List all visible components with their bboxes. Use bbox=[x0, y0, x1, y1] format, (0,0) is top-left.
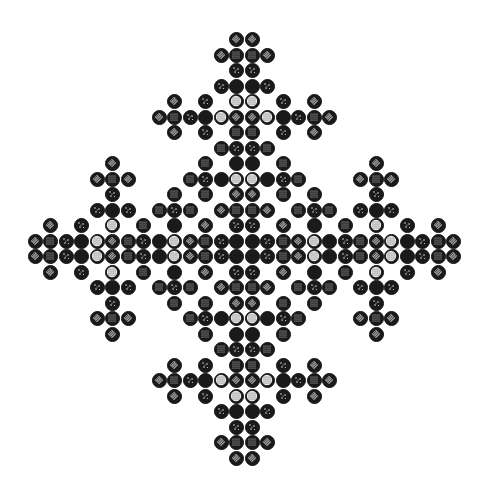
sparse-dot-cell bbox=[369, 296, 384, 311]
dot-grid-cell bbox=[198, 327, 213, 342]
diamond-cell bbox=[446, 234, 461, 249]
dot-grid-cell bbox=[276, 296, 291, 311]
diamond-cell bbox=[90, 311, 105, 326]
dot-grid-cell bbox=[245, 125, 260, 140]
solid-cell bbox=[245, 234, 260, 249]
solid-cell bbox=[229, 156, 244, 171]
solid-cell bbox=[322, 249, 337, 264]
sparse-dot-cell bbox=[400, 218, 415, 233]
sparse-dot-cell bbox=[167, 203, 182, 218]
dot-grid-cell bbox=[369, 172, 384, 187]
dot-grid-cell bbox=[229, 358, 244, 373]
sparse-dot-cell bbox=[260, 249, 275, 264]
diamond-cell bbox=[276, 218, 291, 233]
solid-cell bbox=[307, 265, 322, 280]
dot-grid-cell bbox=[229, 125, 244, 140]
solid-cell bbox=[105, 280, 120, 295]
sparse-dot-cell bbox=[353, 203, 368, 218]
diamond-cell bbox=[384, 172, 399, 187]
dot-grid-cell bbox=[307, 187, 322, 202]
light-cell bbox=[105, 265, 120, 280]
diamond-cell bbox=[353, 172, 368, 187]
solid-cell bbox=[260, 311, 275, 326]
sparse-dot-cell bbox=[245, 342, 260, 357]
dot-grid-cell bbox=[307, 110, 322, 125]
sparse-dot-cell bbox=[183, 110, 198, 125]
dot-grid-cell bbox=[152, 280, 167, 295]
sparse-dot-cell bbox=[198, 358, 213, 373]
sparse-dot-cell bbox=[59, 234, 74, 249]
sparse-dot-cell bbox=[229, 141, 244, 156]
diamond-cell bbox=[260, 280, 275, 295]
solid-cell bbox=[400, 249, 415, 264]
solid-cell bbox=[276, 373, 291, 388]
light-cell bbox=[167, 234, 182, 249]
light-cell bbox=[229, 389, 244, 404]
dot-grid-cell bbox=[245, 358, 260, 373]
diamond-cell bbox=[245, 110, 260, 125]
diamond-cell bbox=[369, 249, 384, 264]
diamond-cell bbox=[152, 373, 167, 388]
sparse-dot-cell bbox=[276, 125, 291, 140]
dot-grid-cell bbox=[229, 280, 244, 295]
light-cell bbox=[105, 218, 120, 233]
sparse-dot-cell bbox=[276, 172, 291, 187]
dot-grid-cell bbox=[276, 187, 291, 202]
sparse-dot-cell bbox=[136, 249, 151, 264]
dot-grid-cell bbox=[369, 311, 384, 326]
dot-grid-cell bbox=[183, 280, 198, 295]
dot-grid-cell bbox=[260, 342, 275, 357]
diamond-cell bbox=[105, 249, 120, 264]
sparse-dot-cell bbox=[260, 79, 275, 94]
sparse-dot-cell bbox=[214, 404, 229, 419]
dot-grid-cell bbox=[291, 172, 306, 187]
dot-grid-cell bbox=[198, 249, 213, 264]
solid-cell bbox=[307, 218, 322, 233]
solid-cell bbox=[369, 203, 384, 218]
diamond-cell bbox=[291, 234, 306, 249]
solid-cell bbox=[152, 249, 167, 264]
diamond-cell bbox=[260, 48, 275, 63]
sparse-dot-cell bbox=[229, 420, 244, 435]
dot-grid-cell bbox=[338, 265, 353, 280]
sparse-dot-cell bbox=[229, 63, 244, 78]
sparse-dot-cell bbox=[105, 296, 120, 311]
sparse-dot-cell bbox=[198, 94, 213, 109]
diamond-cell bbox=[276, 265, 291, 280]
diamond-cell bbox=[183, 234, 198, 249]
dot-grid-cell bbox=[121, 234, 136, 249]
dot-grid-cell bbox=[322, 203, 337, 218]
solid-cell bbox=[245, 249, 260, 264]
dot-grid-cell bbox=[198, 156, 213, 171]
solid-cell bbox=[74, 249, 89, 264]
sparse-dot-cell bbox=[74, 218, 89, 233]
diamond-cell bbox=[245, 296, 260, 311]
solid-cell bbox=[214, 172, 229, 187]
sparse-dot-cell bbox=[369, 187, 384, 202]
dot-grid-cell bbox=[353, 234, 368, 249]
solid-cell bbox=[198, 110, 213, 125]
dot-grid-cell bbox=[136, 265, 151, 280]
diamond-cell bbox=[152, 110, 167, 125]
light-cell bbox=[369, 218, 384, 233]
sparse-dot-cell bbox=[276, 94, 291, 109]
sparse-dot-cell bbox=[276, 358, 291, 373]
diamond-cell bbox=[307, 358, 322, 373]
dot-grid-cell bbox=[167, 373, 182, 388]
light-cell bbox=[245, 94, 260, 109]
diamond-cell bbox=[369, 327, 384, 342]
dot-grid-cell bbox=[229, 203, 244, 218]
diamond-cell bbox=[322, 110, 337, 125]
dot-grid-cell bbox=[183, 172, 198, 187]
diamond-cell bbox=[369, 156, 384, 171]
dot-grid-cell bbox=[229, 48, 244, 63]
sparse-dot-cell bbox=[167, 280, 182, 295]
diamond-cell bbox=[121, 172, 136, 187]
dot-grid-cell bbox=[43, 234, 58, 249]
diamond-cell bbox=[214, 435, 229, 450]
sparse-dot-cell bbox=[384, 203, 399, 218]
diamond-cell bbox=[121, 311, 136, 326]
diamond-cell bbox=[167, 94, 182, 109]
sparse-dot-cell bbox=[229, 265, 244, 280]
sparse-dot-cell bbox=[415, 234, 430, 249]
